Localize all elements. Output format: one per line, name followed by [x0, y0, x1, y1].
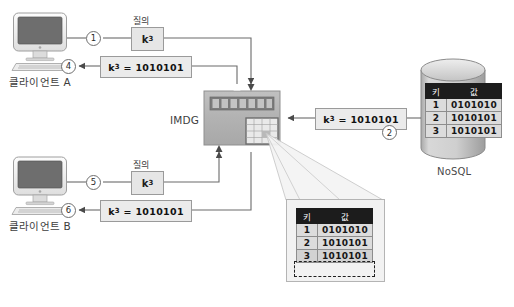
table-row: 1 0101010	[297, 224, 373, 237]
step-marker-1: 1	[86, 31, 101, 46]
nosql-kv-table: 키 값 1 0101010 2 1010101 3 1010101	[425, 83, 502, 138]
imdg-label: IMDG	[170, 114, 199, 126]
nosql-cell-key-2: 2	[426, 112, 447, 125]
diagram-vector-layer	[0, 0, 514, 307]
query-key-text-a: k	[142, 34, 149, 45]
imdg-header-key: 키	[297, 209, 318, 224]
diagram-canvas: 클라이언트 A 클라이언트 B IMDG NoSQL 질의 질의 k3 k3 k…	[0, 0, 514, 307]
step-marker-2: 2	[382, 125, 397, 140]
result-key-sub-b: 3	[115, 207, 120, 215]
imdg-cell-key-1: 1	[297, 224, 318, 237]
result-value-nosql: = 1010101	[339, 114, 399, 125]
imdg-table-header-row: 키 값	[297, 209, 373, 224]
nosql-cell-value-1: 0101010	[447, 99, 502, 112]
result-key-sub-a: 3	[115, 63, 120, 71]
nosql-header-value: 값	[447, 84, 502, 99]
imdg-cell-key-2: 2	[297, 237, 318, 250]
result-box-client-a: k3 = 1010101	[100, 56, 192, 78]
result-value-a: = 1010101	[124, 62, 184, 73]
table-row: 1 0101010	[426, 99, 502, 112]
imdg-cell-value-1: 0101010	[318, 224, 373, 237]
callout-cone	[266, 133, 383, 200]
client-a-label: 클라이언트 A	[9, 74, 71, 89]
table-row: 2 1010101	[297, 237, 373, 250]
imdg-cache-highlight-outline	[294, 261, 375, 277]
query-key-box-a: k3	[131, 27, 164, 51]
result-box-client-b: k3 = 1010101	[100, 200, 192, 222]
nosql-table-header-row: 키 값	[426, 84, 502, 99]
nosql-header-key: 키	[426, 84, 447, 99]
result-key-b: k	[108, 206, 115, 217]
nosql-cell-key-1: 1	[426, 99, 447, 112]
nosql-cell-value-2: 1010101	[447, 112, 502, 125]
query-caption-b: 질의	[133, 158, 149, 171]
query-key-box-b: k3	[131, 171, 164, 195]
step-marker-6: 6	[61, 203, 76, 218]
result-value-b: = 1010101	[124, 206, 184, 217]
query-key-sub-b: 3	[148, 179, 153, 187]
result-key-a: k	[108, 62, 115, 73]
imdg-header-value: 값	[318, 209, 373, 224]
imdg-cell-value-2: 1010101	[318, 237, 373, 250]
step-marker-5: 5	[86, 175, 101, 190]
nosql-label: NoSQL	[437, 166, 471, 177]
nosql-cell-key-3: 3	[426, 125, 447, 138]
table-row: 2 1010101	[426, 112, 502, 125]
query-caption-a: 질의	[133, 14, 149, 27]
table-row: 3 1010101	[426, 125, 502, 138]
step-marker-4: 4	[61, 59, 76, 74]
result-key-sub-nosql: 3	[330, 115, 335, 123]
imdg-inbound-arrow-bottom	[216, 145, 223, 152]
result-key-nosql: k	[323, 114, 330, 125]
nosql-cell-value-3: 1010101	[447, 125, 502, 138]
query-key-sub-a: 3	[148, 35, 153, 43]
imdg-outbound-arrow-left-top	[234, 84, 241, 91]
query-key-text-b: k	[142, 178, 149, 189]
imdg-cache-kv-table: 키 값 1 0101010 2 1010101 3 1010101	[296, 208, 373, 263]
client-b-label: 클라이언트 B	[9, 218, 71, 233]
imdg-inbound-arrow-top	[248, 84, 255, 91]
